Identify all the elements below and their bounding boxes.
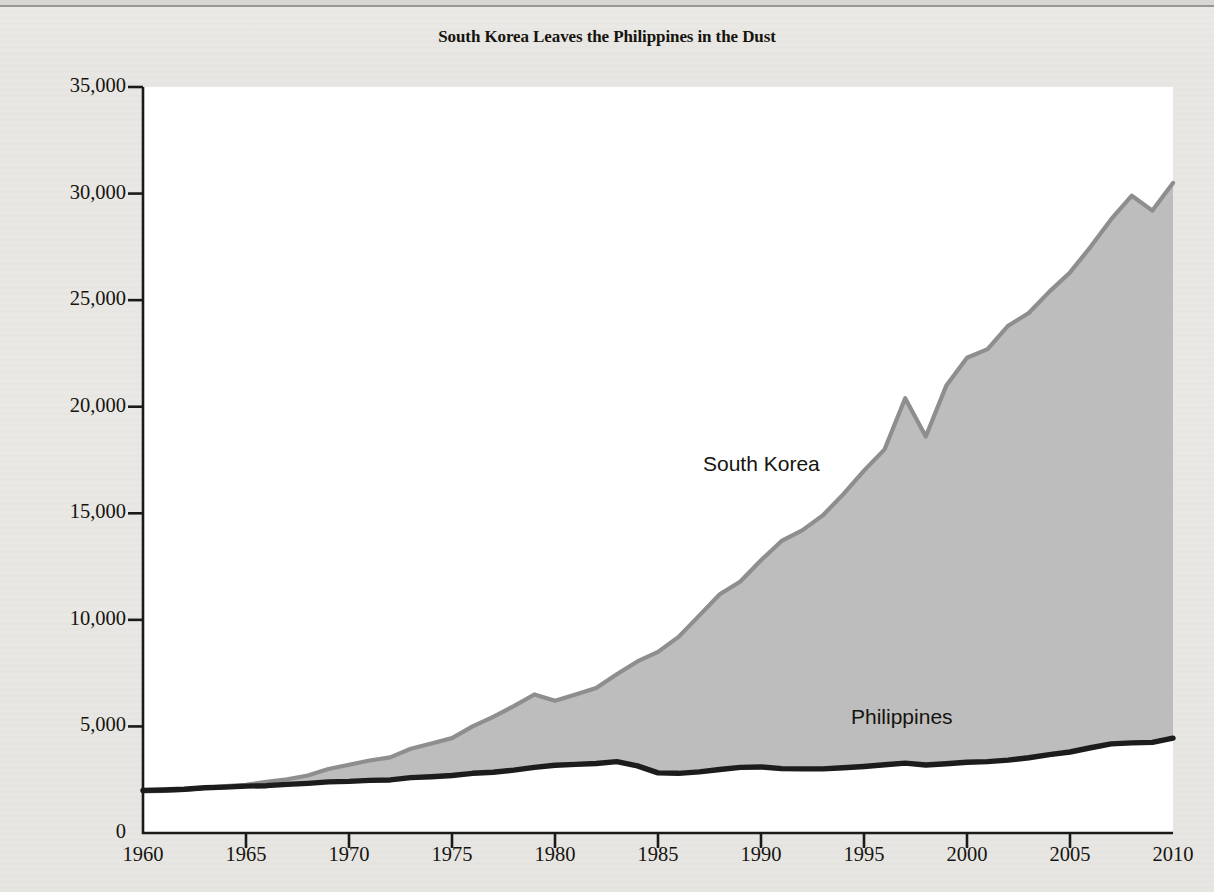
chart-svg bbox=[0, 0, 1214, 892]
x-tick-label-6: 1990 bbox=[716, 843, 806, 866]
x-tick-label-10: 2010 bbox=[1128, 843, 1214, 866]
south-korea-area-fill bbox=[143, 183, 1173, 792]
x-tick-label-0: 1960 bbox=[98, 843, 188, 866]
x-tick-label-5: 1985 bbox=[613, 843, 703, 866]
x-tick-label-3: 1975 bbox=[407, 843, 497, 866]
x-tick-label-2: 1970 bbox=[304, 843, 394, 866]
x-tick-label-9: 2005 bbox=[1025, 843, 1115, 866]
x-tick-label-4: 1980 bbox=[510, 843, 600, 866]
x-tick-label-1: 1965 bbox=[201, 843, 291, 866]
series-label-south-korea: South Korea bbox=[703, 452, 820, 476]
x-tick-label-8: 2000 bbox=[922, 843, 1012, 866]
series-label-philippines: Philippines bbox=[851, 705, 953, 729]
x-tick-label-7: 1995 bbox=[819, 843, 909, 866]
